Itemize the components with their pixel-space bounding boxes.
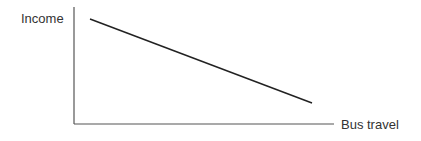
y-axis-label: Income xyxy=(21,11,64,26)
income-bus-travel-line xyxy=(90,19,312,103)
x-axis-label: Bus travel xyxy=(341,117,399,132)
